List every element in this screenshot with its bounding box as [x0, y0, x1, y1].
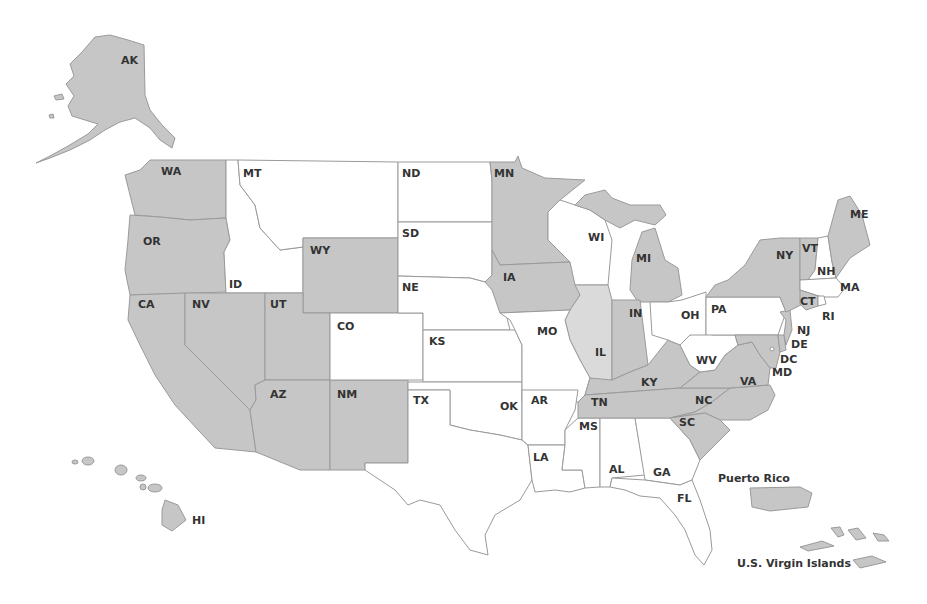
- state-label-ut: UT: [270, 299, 286, 310]
- state-label-pa: PA: [711, 304, 727, 315]
- state-label-nh: NH: [817, 266, 835, 277]
- state-label-ca: CA: [138, 299, 155, 310]
- state-label-ak: AK: [121, 55, 138, 66]
- state-label-or: OR: [143, 236, 161, 247]
- state-label-oh: OH: [681, 310, 700, 321]
- state-az[interactable]: [250, 380, 330, 470]
- state-label-mn: MN: [494, 168, 514, 179]
- state-label-al: AL: [609, 464, 625, 475]
- state-label-nv: NV: [192, 299, 210, 310]
- state-mi-lower[interactable]: [630, 228, 682, 302]
- state-label-il: IL: [595, 347, 606, 358]
- state-fl[interactable]: [610, 478, 712, 565]
- state-label-wy: WY: [310, 245, 330, 256]
- state-label-co: CO: [337, 321, 354, 332]
- territory-label-u-s-virgin-islands: U.S. Virgin Islands: [737, 558, 851, 569]
- state-label-nd: ND: [402, 168, 420, 179]
- state-label-ne: NE: [402, 282, 419, 293]
- state-label-wi: WI: [588, 232, 604, 243]
- state-label-ar: AR: [531, 395, 548, 406]
- state-label-tx: TX: [413, 395, 429, 406]
- state-dc[interactable]: [770, 347, 774, 351]
- state-label-mo: MO: [537, 326, 557, 337]
- state-label-vt: VT: [802, 243, 818, 254]
- state-label-ms: MS: [579, 421, 598, 432]
- state-label-in: IN: [629, 308, 642, 319]
- state-label-tn: TN: [591, 397, 608, 408]
- state-label-hi: HI: [192, 515, 205, 526]
- state-label-ok: OK: [500, 401, 518, 412]
- state-label-ky: KY: [641, 377, 658, 388]
- state-label-me: ME: [850, 209, 868, 220]
- state-label-id: ID: [229, 279, 242, 290]
- state-label-dc: DC: [780, 354, 797, 365]
- state-label-sd: SD: [402, 228, 419, 239]
- state-label-md: MD: [772, 367, 792, 378]
- state-label-ks: KS: [429, 336, 445, 347]
- state-ak-island: [54, 94, 64, 100]
- state-label-wa: WA: [161, 166, 181, 177]
- state-label-nj: NJ: [797, 325, 810, 336]
- state-label-ri: RI: [822, 311, 835, 322]
- state-label-ct: CT: [800, 296, 816, 307]
- state-label-mt: MT: [243, 168, 261, 179]
- state-label-wv: WV: [696, 355, 717, 366]
- state-label-la: LA: [533, 452, 549, 463]
- territory-puerto-rico[interactable]: [750, 487, 812, 511]
- state-label-fl: FL: [677, 493, 692, 504]
- state-label-ga: GA: [653, 467, 671, 478]
- state-label-ma: MA: [840, 282, 859, 293]
- state-label-va: VA: [740, 376, 756, 387]
- territory-label-puerto-rico: Puerto Rico: [718, 473, 790, 484]
- state-label-mi: MI: [636, 253, 651, 264]
- state-label-ny: NY: [776, 250, 793, 261]
- state-hi[interactable]: [72, 457, 186, 531]
- state-label-sc: SC: [679, 417, 695, 428]
- state-label-nm: NM: [337, 389, 357, 400]
- state-label-de: DE: [791, 339, 808, 350]
- state-label-nc: NC: [695, 395, 712, 406]
- state-label-ia: IA: [503, 272, 516, 283]
- state-ak-island: [49, 114, 54, 118]
- state-or[interactable]: [125, 215, 230, 295]
- state-label-az: AZ: [270, 389, 287, 400]
- state-ri[interactable]: [818, 296, 826, 306]
